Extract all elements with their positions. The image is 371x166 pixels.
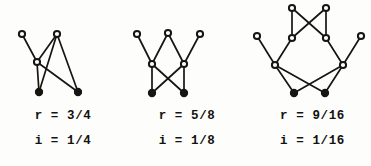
- caption-2: r = 5/8 i = 1/8: [124, 104, 248, 154]
- graph-edge: [275, 38, 292, 65]
- figure-panel-3: r = 9/16 i = 1/16: [248, 0, 371, 166]
- caption-i-value-3: i = 1/16: [248, 129, 371, 154]
- graph-node-open: [323, 35, 329, 41]
- graph-node-filled: [321, 89, 328, 96]
- graph-edge: [168, 33, 184, 64]
- caption-i-value-1: i = 1/4: [0, 129, 124, 154]
- figure-sheet: r = 3/4 i = 1/4 r = 5/8 i = 1/8 r = 9/16…: [0, 0, 371, 166]
- graph-node-open: [181, 61, 187, 67]
- graph-edge: [37, 34, 57, 62]
- caption-3: r = 9/16 i = 1/16: [248, 104, 371, 154]
- figure-panel-1: r = 3/4 i = 1/4: [0, 0, 124, 166]
- graph-edge: [343, 36, 361, 65]
- graph-node-open: [149, 61, 155, 67]
- graph-edge: [184, 34, 200, 64]
- graph-node-open: [134, 31, 140, 37]
- graph-node-filled: [148, 89, 155, 96]
- graph-node-filled: [74, 88, 81, 95]
- graph-diagram-3: [248, 0, 371, 104]
- figure-panel-2: r = 5/8 i = 1/8: [124, 0, 248, 166]
- graph-node-open: [289, 35, 295, 41]
- graph-node-open: [54, 31, 60, 37]
- graph-diagram-2: [124, 0, 248, 104]
- graph-edge: [257, 36, 275, 65]
- graph-node-open: [165, 30, 171, 36]
- caption-i-value-2: i = 1/8: [124, 129, 248, 154]
- caption-r-value-3: r = 9/16: [248, 104, 371, 129]
- graph-node-open: [358, 33, 364, 39]
- graph-diagram-1: [0, 0, 124, 104]
- graph-node-open: [197, 31, 203, 37]
- graph-edge: [39, 34, 57, 92]
- caption-r-value-1: r = 3/4: [0, 104, 124, 129]
- caption-r-value-2: r = 5/8: [124, 104, 248, 129]
- graph-edge: [275, 65, 294, 93]
- graph-node-open: [254, 33, 260, 39]
- graph-edge: [137, 34, 152, 64]
- graph-node-filled: [180, 89, 187, 96]
- graph-node-filled: [35, 88, 42, 95]
- graph-node-open: [34, 59, 40, 65]
- graph-node-open: [19, 31, 25, 37]
- caption-1: r = 3/4 i = 1/4: [0, 104, 124, 154]
- graph-node-open: [340, 62, 346, 68]
- graph-edge: [326, 38, 343, 65]
- graph-node-open: [289, 5, 295, 11]
- graph-node-open: [323, 5, 329, 11]
- graph-edge: [22, 34, 37, 62]
- graph-node-filled: [290, 89, 297, 96]
- graph-edge: [152, 33, 168, 64]
- graph-node-open: [272, 62, 278, 68]
- graph-edge: [37, 62, 39, 92]
